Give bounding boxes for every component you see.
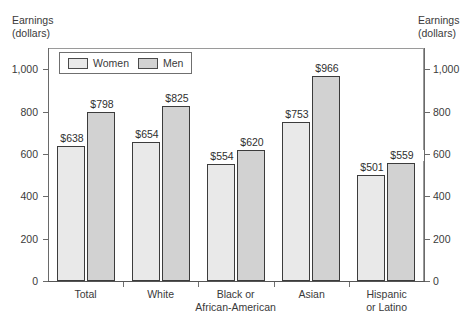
bar-women-0 bbox=[57, 146, 85, 281]
right-axis-caption-line2: (dollars) bbox=[418, 27, 459, 40]
category-label-line: Hispanic bbox=[329, 288, 444, 301]
y-tick-left-0 bbox=[43, 281, 48, 282]
y-tick-left-200 bbox=[43, 239, 48, 240]
y-axis-label-left-1000: 1,000 bbox=[12, 64, 38, 75]
category-label-line: African-American bbox=[178, 301, 293, 314]
y-tick-left-800 bbox=[43, 112, 48, 113]
legend-swatch-men-icon bbox=[138, 58, 158, 69]
bar-men-4 bbox=[387, 163, 415, 281]
bar-women-1 bbox=[132, 142, 160, 281]
bar-men-3 bbox=[312, 76, 340, 281]
y-axis-label-right-200: 200 bbox=[433, 234, 451, 245]
left-axis-caption-line1: Earnings bbox=[12, 14, 53, 26]
y-tick-right-400 bbox=[425, 196, 430, 197]
y-tick-left-1000 bbox=[43, 69, 48, 70]
right-axis-caption: Earnings (dollars) bbox=[418, 14, 459, 40]
x-tick-1 bbox=[198, 282, 199, 287]
y-axis-label-right-0: 0 bbox=[433, 276, 439, 287]
y-axis-label-left-800: 800 bbox=[20, 107, 38, 118]
y-axis-right bbox=[424, 48, 425, 282]
y-axis-label-right-400: 400 bbox=[433, 191, 451, 202]
y-tick-right-200 bbox=[425, 239, 430, 240]
earnings-bar-chart: Earnings (dollars) Earnings (dollars) 00… bbox=[0, 0, 476, 326]
left-axis-caption-line2: (dollars) bbox=[12, 27, 53, 40]
bar-men-1 bbox=[162, 106, 190, 281]
right-axis-caption-line1: Earnings bbox=[418, 14, 459, 26]
bar-value-men-2: $620 bbox=[230, 137, 274, 148]
bar-women-4 bbox=[357, 175, 385, 281]
bar-women-3 bbox=[282, 122, 310, 281]
bar-value-men-0: $798 bbox=[80, 99, 124, 110]
y-axis-label-left-400: 400 bbox=[20, 191, 38, 202]
y-tick-left-600 bbox=[43, 154, 48, 155]
bar-value-men-3: $966 bbox=[305, 63, 349, 74]
legend-entry-men: Men bbox=[138, 58, 183, 69]
y-tick-right-1000 bbox=[425, 69, 430, 70]
bar-men-2 bbox=[237, 150, 265, 281]
x-tick-2 bbox=[274, 282, 275, 287]
bar-women-2 bbox=[207, 164, 235, 281]
bar-men-0 bbox=[87, 112, 115, 281]
legend-swatch-women-icon bbox=[68, 58, 88, 69]
category-label-4: Hispanicor Latino bbox=[329, 288, 444, 314]
left-axis-caption: Earnings (dollars) bbox=[12, 14, 53, 40]
y-tick-right-800 bbox=[425, 112, 430, 113]
y-axis-label-right-1000: 1,000 bbox=[433, 64, 459, 75]
legend-entry-women: Women bbox=[68, 58, 129, 69]
category-label-line: or Latino bbox=[329, 301, 444, 314]
chart-legend: Women Men bbox=[59, 52, 192, 74]
y-axis-label-left-0: 0 bbox=[32, 276, 38, 287]
x-tick-0 bbox=[123, 282, 124, 287]
x-tick-3 bbox=[349, 282, 350, 287]
y-tick-right-0 bbox=[425, 281, 430, 282]
bar-value-men-1: $825 bbox=[155, 93, 199, 104]
x-axis bbox=[48, 281, 425, 282]
legend-label-women: Women bbox=[93, 58, 129, 69]
y-axis-left bbox=[48, 48, 49, 282]
legend-label-men: Men bbox=[163, 58, 183, 69]
y-axis-label-right-800: 800 bbox=[433, 107, 451, 118]
y-axis-label-left-200: 200 bbox=[20, 234, 38, 245]
y-tick-right-600 bbox=[425, 154, 430, 155]
y-axis-label-left-600: 600 bbox=[20, 149, 38, 160]
y-axis-label-right-600: 600 bbox=[433, 149, 451, 160]
y-tick-left-400 bbox=[43, 196, 48, 197]
bar-value-men-4: $559 bbox=[380, 150, 424, 161]
